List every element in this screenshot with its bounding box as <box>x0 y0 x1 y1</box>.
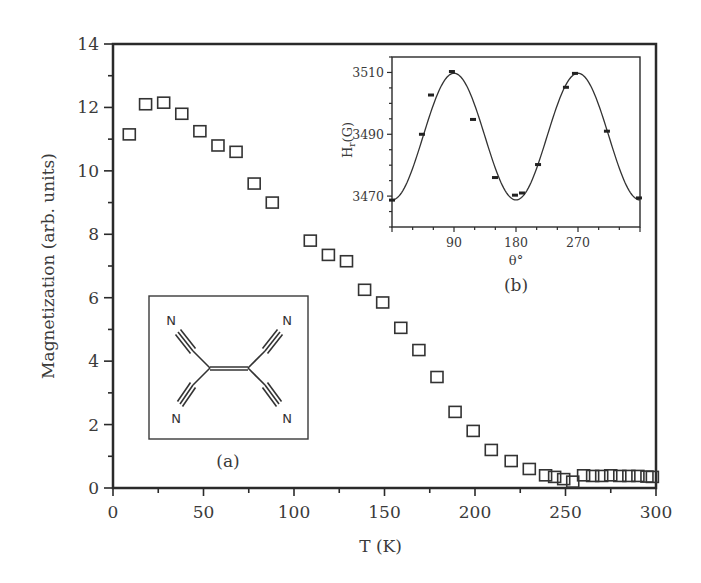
data-point <box>230 146 242 157</box>
data-point <box>505 456 517 467</box>
inset-data-point <box>604 130 610 133</box>
y-tick-label: 12 <box>77 97 99 117</box>
data-point <box>359 284 371 295</box>
data-point <box>614 470 626 481</box>
inset-y-tick-label: 3490 <box>352 127 384 142</box>
inset-data-point <box>449 70 455 73</box>
data-point <box>322 249 334 260</box>
data-point <box>176 108 188 119</box>
inset-y-tick-label: 3470 <box>352 189 384 204</box>
inset-data-point <box>535 163 541 166</box>
inset-y-ticks: 347034903510 <box>352 57 392 227</box>
data-point <box>377 297 389 308</box>
data-point <box>623 470 635 481</box>
y-tick-label: 4 <box>88 351 99 371</box>
atom-n-bottom-left: N <box>171 411 181 426</box>
y-tick-label: 14 <box>77 34 99 54</box>
inset-data-point <box>519 192 525 195</box>
inset-x-tick-label: 180 <box>504 235 528 250</box>
data-point <box>266 197 278 208</box>
data-point <box>413 345 425 356</box>
y-tick-label: 8 <box>88 224 99 244</box>
main-y-ticks: 02468101214 <box>77 34 113 498</box>
data-point <box>596 470 608 481</box>
x-tick-label: 150 <box>368 502 400 522</box>
data-point <box>605 470 617 481</box>
inset-plot-frame <box>392 57 640 227</box>
x-axis-title: T (K) <box>359 536 402 556</box>
inset-data-point <box>428 94 434 97</box>
inset-data-point <box>563 86 569 89</box>
molecule-inset: N N N N (a) <box>149 296 308 471</box>
data-point <box>123 129 135 140</box>
data-point <box>340 256 352 267</box>
x-tick-label: 200 <box>459 502 491 522</box>
data-point <box>449 406 461 417</box>
data-point <box>467 425 479 436</box>
data-point <box>248 178 260 189</box>
esr-inset-plot: 90180270 347034903510 θ° Hr(G) (b) <box>340 57 642 295</box>
data-point <box>158 97 170 108</box>
x-tick-label: 100 <box>278 502 310 522</box>
inset-data-point <box>389 199 395 202</box>
inset-ylabel-main: H <box>340 147 355 158</box>
inset-data-point <box>470 118 476 121</box>
y-tick-label: 2 <box>88 415 99 435</box>
inset-x-tick-label: 270 <box>566 235 590 250</box>
x-tick-label: 250 <box>549 502 581 522</box>
data-point <box>212 140 224 151</box>
data-point <box>632 470 644 481</box>
inset-x-tick-label: 90 <box>446 235 462 250</box>
main-x-ticks: 050100150200250300 <box>108 488 673 522</box>
data-point <box>194 126 206 137</box>
atom-n-top-right: N <box>282 313 292 328</box>
inset-y-axis-title: Hr(G) <box>340 122 357 158</box>
inset-x-axis-title: θ° <box>509 253 523 268</box>
atom-n-top-left: N <box>166 313 176 328</box>
y-axis-title: Magnetization (arb. units) <box>38 153 58 379</box>
inset-x-ticks: 90180270 <box>392 227 640 250</box>
y-tick-label: 10 <box>77 161 99 181</box>
inset-data-point <box>492 176 498 179</box>
inset-y-tick-label: 3510 <box>352 65 384 80</box>
panel-label-a: (a) <box>216 451 239 471</box>
data-point <box>304 235 316 246</box>
inset-data-point <box>419 133 425 136</box>
data-point <box>523 463 535 474</box>
chart-canvas: 050100150200250300 02468101214 T (K) Mag… <box>0 0 701 583</box>
x-tick-label: 0 <box>108 502 119 522</box>
inset-data-point <box>512 194 518 197</box>
data-point <box>587 470 599 481</box>
inset-data-point <box>572 72 578 75</box>
y-tick-label: 6 <box>88 288 99 308</box>
inset-ylabel-rest: (G) <box>340 122 355 143</box>
y-tick-label: 0 <box>88 478 99 498</box>
data-point <box>431 372 443 383</box>
atom-n-bottom-right: N <box>282 411 292 426</box>
x-tick-label: 50 <box>193 502 215 522</box>
inset-data-point <box>636 196 642 199</box>
data-point <box>140 99 152 110</box>
data-point <box>395 322 407 333</box>
data-point <box>485 444 497 455</box>
panel-label-b: (b) <box>504 275 528 295</box>
x-tick-label: 300 <box>640 502 672 522</box>
